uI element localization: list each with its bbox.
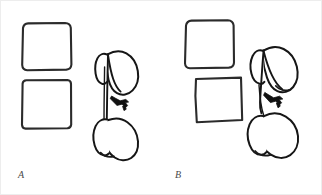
panel-a-drawing (1, 1, 162, 195)
panel-a-lower-square (22, 80, 71, 129)
figure-root: A (0, 0, 322, 195)
panel-a-upper-leaf-left-lobe (95, 54, 107, 84)
panel-b-arrow-marker (264, 92, 283, 104)
panel-b-arrow-marker-tail (276, 103, 280, 108)
panel-b-lower-square (195, 78, 242, 123)
panel-b-upper-leaf (263, 47, 298, 92)
panel-a-upper-square (22, 23, 71, 70)
panel-a-lower-leaf-left-lobe (93, 119, 109, 155)
panel-b-label: B (175, 169, 181, 180)
panel-a: A (1, 1, 162, 195)
panel-a-label: A (18, 169, 24, 180)
panel-a-arrow-marker (110, 96, 128, 107)
panel-b: B (162, 1, 322, 195)
panel-b-lower-leaf-left-lobe (248, 116, 267, 155)
panel-b-drawing (162, 1, 322, 195)
panel-b-upper-square (185, 20, 234, 68)
panel-a-arrow-marker-tail (123, 106, 127, 111)
